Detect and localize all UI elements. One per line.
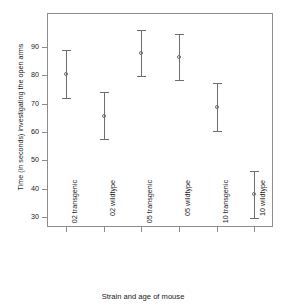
y-axis-tick-label: 60	[17, 128, 39, 136]
x-axis-tick-mark	[179, 227, 180, 232]
error-bar-lower-cap	[100, 139, 109, 140]
y-axis-tick-label: 90	[17, 43, 39, 51]
error-bar-upper-cap	[137, 30, 146, 31]
error-bar-lower-cap	[175, 80, 184, 81]
error-bar-lower-cap	[62, 98, 71, 99]
error-bar-upper-cap	[175, 34, 184, 35]
y-axis-tick-label: 50	[17, 156, 39, 164]
x-axis-title: Strain and age of mouse	[0, 292, 286, 301]
y-axis-title: Time (in seconds) investigating the open…	[14, 2, 28, 232]
data-point-marker	[252, 192, 256, 196]
y-axis-tick-label: 80	[17, 71, 39, 79]
y-axis-tick-mark	[42, 75, 47, 76]
error-bar-upper-cap	[250, 171, 259, 172]
x-axis-tick-mark	[104, 227, 105, 232]
x-axis-tick-mark	[141, 227, 142, 232]
y-axis-tick-label: 40	[17, 185, 39, 193]
x-axis-tick-mark	[66, 227, 67, 232]
error-bar-lower-cap	[137, 76, 146, 77]
error-bar-upper-cap	[62, 50, 71, 51]
error-bar-upper-cap	[100, 92, 109, 93]
error-bar-lower-cap	[213, 131, 222, 132]
data-point-marker	[102, 114, 106, 118]
x-axis-tick-mark	[217, 227, 218, 232]
x-axis-tick-label: 05 wildtype	[183, 180, 193, 234]
x-axis-tick-label: 05 transgenic	[145, 180, 155, 234]
error-bar-lower-cap	[250, 218, 259, 219]
x-axis-tick-label: 10 wildtype	[258, 180, 268, 234]
data-point-marker	[139, 51, 143, 55]
x-axis-tick-label: 02 transgenic	[70, 180, 80, 234]
x-axis-tick-mark	[254, 227, 255, 232]
data-point-marker	[177, 55, 181, 59]
y-axis-tick-mark	[42, 132, 47, 133]
y-axis-tick-mark	[42, 160, 47, 161]
x-axis-tick-label: 02 wildtype	[108, 180, 118, 234]
data-point-marker	[215, 105, 219, 109]
y-axis-tick-mark	[42, 104, 47, 105]
y-axis-tick-mark	[42, 189, 47, 190]
chart-figure: Time (in seconds) investigating the open…	[0, 0, 286, 308]
x-axis-tick-label: 10 transgenic	[221, 180, 231, 234]
y-axis-tick-label: 70	[17, 100, 39, 108]
plot-panel	[47, 13, 273, 227]
y-axis-tick-mark	[42, 47, 47, 48]
data-point-marker	[64, 72, 68, 76]
y-axis-tick-mark	[42, 217, 47, 218]
y-axis-tick-label: 30	[17, 213, 39, 221]
error-bar-upper-cap	[213, 83, 222, 84]
